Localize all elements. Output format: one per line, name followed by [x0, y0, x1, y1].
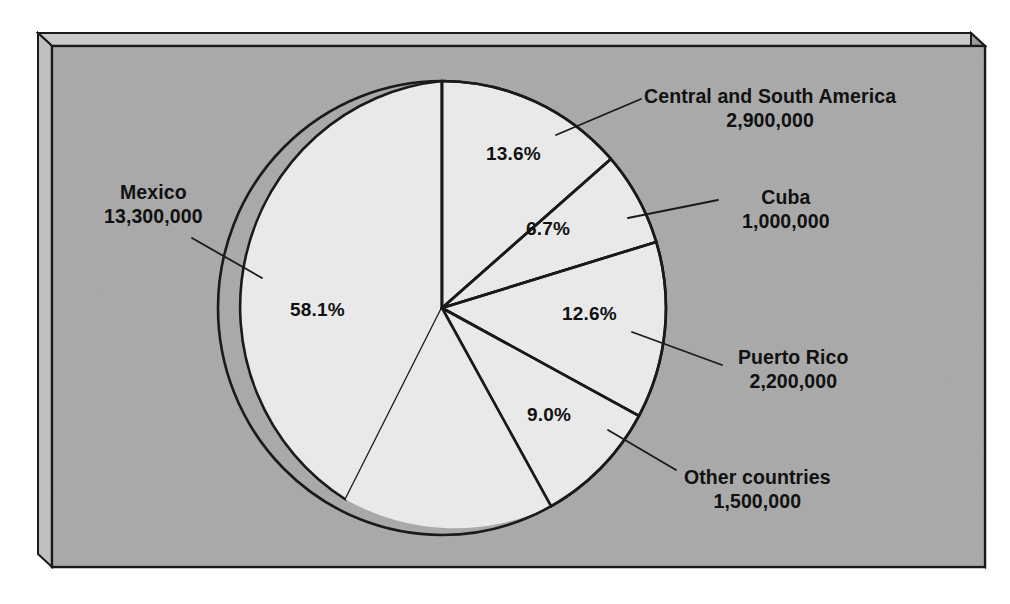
- callout-other-countries-name: Other countries: [684, 465, 831, 489]
- callout-mexico: Mexico 13,300,000: [104, 180, 203, 229]
- callout-mexico-name: Mexico: [104, 180, 203, 204]
- callout-puerto-rico-name: Puerto Rico: [738, 345, 849, 369]
- callout-central-south-america-name: Central and South America: [644, 84, 896, 108]
- percent-label-cuba: 6.7%: [526, 217, 570, 241]
- callout-other-countries-value: 1,500,000: [684, 489, 831, 513]
- figure-root: Central and South America 2,900,000 Cuba…: [0, 0, 1010, 604]
- callout-cuba: Cuba 1,000,000: [742, 185, 830, 234]
- percent-label-central-south-america: 13.6%: [486, 142, 541, 166]
- percent-label-puerto-rico: 12.6%: [562, 302, 617, 326]
- slab-top-face: [38, 33, 985, 46]
- callout-mexico-value: 13,300,000: [104, 204, 203, 228]
- callout-cuba-name: Cuba: [742, 185, 830, 209]
- callout-other-countries: Other countries 1,500,000: [684, 465, 831, 514]
- callout-central-south-america-value: 2,900,000: [644, 108, 896, 132]
- percent-label-other-countries: 9.0%: [527, 403, 571, 427]
- percent-label-mexico: 58.1%: [290, 298, 345, 322]
- callout-puerto-rico: Puerto Rico 2,200,000: [738, 345, 849, 394]
- callout-cuba-value: 1,000,000: [742, 209, 830, 233]
- slab-left-face: [38, 33, 52, 567]
- callout-central-south-america: Central and South America 2,900,000: [644, 84, 896, 133]
- callout-puerto-rico-value: 2,200,000: [738, 369, 849, 393]
